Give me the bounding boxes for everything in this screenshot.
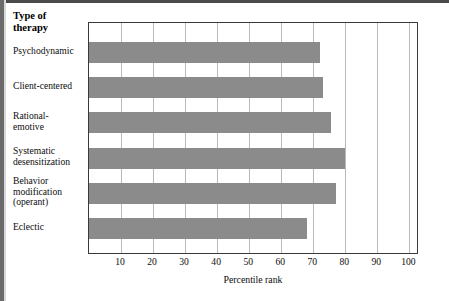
category-label: Client-centered xyxy=(13,81,93,92)
bar xyxy=(89,77,323,98)
category-axis-title-line-1: Type of xyxy=(13,10,91,22)
category-label: Eclectic xyxy=(13,222,93,233)
bar xyxy=(89,112,331,133)
x-tick-label: 20 xyxy=(147,256,157,267)
category-label-line: (operant) xyxy=(13,197,93,208)
bar-series xyxy=(89,23,417,253)
x-tick-label: 40 xyxy=(211,256,221,267)
x-axis-tick-labels: 102030405060708090100 xyxy=(88,256,418,270)
page-edge-left-inner xyxy=(4,0,6,301)
x-axis-label: Percentile rank xyxy=(88,274,418,285)
x-tick-label: 50 xyxy=(243,256,253,267)
x-tick-label: 100 xyxy=(401,256,415,267)
percentile-rank-bar-chart: Type of therapy PsychodynamicClient-cent… xyxy=(0,0,449,301)
category-label: Behaviormodification(operant) xyxy=(13,176,93,208)
bar xyxy=(89,42,320,63)
page-edge-top xyxy=(0,0,449,3)
x-tick-label: 70 xyxy=(307,256,317,267)
x-tick-label: 60 xyxy=(275,256,285,267)
bar xyxy=(89,218,307,239)
category-label-line: Psychodynamic xyxy=(13,46,93,57)
category-label-line: desensitization xyxy=(13,157,93,168)
x-tick-label: 80 xyxy=(340,256,350,267)
category-labels: PsychodynamicClient-centeredRational-emo… xyxy=(13,32,93,254)
bar xyxy=(89,183,336,204)
category-label: Systematicdesensitization xyxy=(13,146,93,167)
x-tick-label: 90 xyxy=(372,256,382,267)
category-label: Rational-emotive xyxy=(13,111,93,132)
x-tick-label: 30 xyxy=(179,256,189,267)
category-label-line: Eclectic xyxy=(13,222,93,233)
plot-area xyxy=(88,22,418,254)
x-tick-label: 10 xyxy=(115,256,125,267)
category-label-line: Client-centered xyxy=(13,81,93,92)
category-label: Psychodynamic xyxy=(13,46,93,57)
bar xyxy=(89,148,345,169)
category-label-line: emotive xyxy=(13,122,93,133)
category-axis-title: Type of therapy xyxy=(13,10,91,33)
